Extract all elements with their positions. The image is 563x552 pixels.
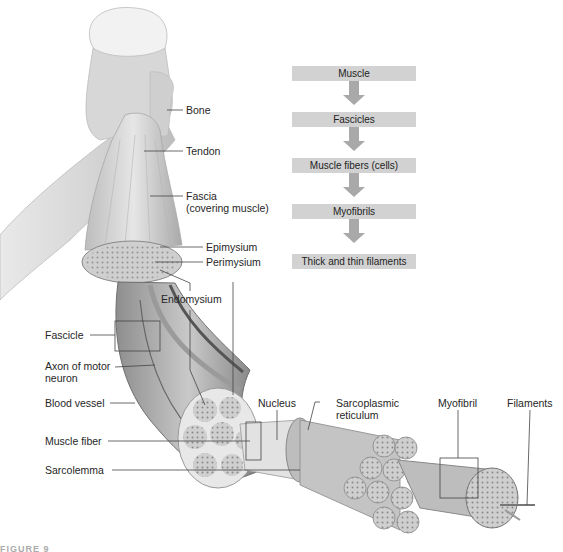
label-endomysium: Endomysium xyxy=(161,293,222,305)
label-axon: Axon of motor xyxy=(45,360,110,372)
figure-caption: FIGURE 9 xyxy=(0,544,50,552)
flow-step-myofibrils: Myofibrils xyxy=(292,204,416,219)
label-fascicle: Fascicle xyxy=(45,329,84,341)
label-nucleus: Nucleus xyxy=(258,397,296,409)
label-sarcoplasmic: Sarcoplasmic xyxy=(336,397,399,409)
flow-step-muscle: Muscle xyxy=(292,66,416,81)
label-sarcoplasmic-sub: reticulum xyxy=(336,409,379,421)
label-epimysium: Epimysium xyxy=(206,241,257,253)
flow-step-fascicles: Fascicles xyxy=(292,112,416,127)
label-bone: Bone xyxy=(186,104,211,116)
label-perimysium: Perimysium xyxy=(206,256,261,268)
label-fascia: Fascia xyxy=(186,190,217,202)
flow-step-muscle-fibers: Muscle fibers (cells) xyxy=(292,158,416,173)
label-muscle-fiber: Muscle fiber xyxy=(45,435,102,447)
label-sarcolemma: Sarcolemma xyxy=(45,464,104,476)
label-myofibril: Myofibril xyxy=(438,397,477,409)
label-tendon: Tendon xyxy=(186,145,220,157)
label-fascia-sub: (covering muscle) xyxy=(186,202,269,214)
flow-step-filaments: Thick and thin filaments xyxy=(292,254,416,269)
label-blood-vessel: Blood vessel xyxy=(45,397,105,409)
label-filaments: Filaments xyxy=(507,397,553,409)
label-axon-sub: neuron xyxy=(45,372,78,384)
